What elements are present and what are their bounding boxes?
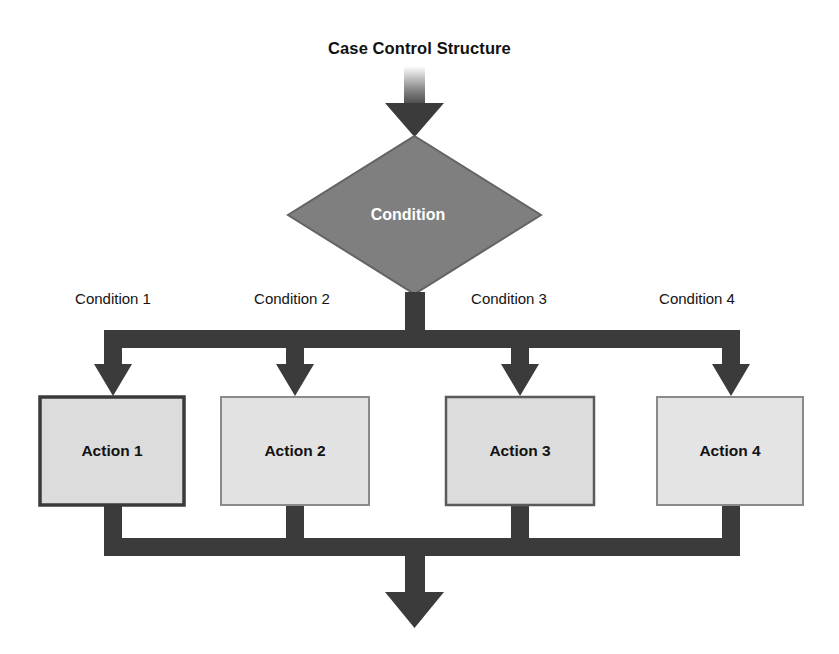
merge-connector-3	[511, 503, 529, 541]
branch-label-condition-3: Condition 3	[443, 291, 575, 306]
merge-connector-2	[286, 503, 304, 541]
page-title: Case Control Structure	[0, 40, 839, 57]
action-label-1: Action 1	[40, 443, 184, 459]
action-label-2: Action 2	[221, 443, 369, 459]
case-control-structure-diagram: Case Control Structure Condition Conditi…	[0, 0, 839, 654]
flowchart-graphics	[0, 0, 839, 654]
merge-bar-connector	[104, 538, 740, 556]
branch-label-condition-2: Condition 2	[226, 291, 358, 306]
merge-connector-1	[104, 503, 122, 541]
action-label-3: Action 3	[446, 443, 594, 459]
branch-label-condition-4: Condition 4	[631, 291, 763, 306]
decision-label: Condition	[275, 207, 541, 223]
merge-connector-4	[722, 503, 740, 541]
action-label-4: Action 4	[657, 443, 803, 459]
branch-label-condition-1: Condition 1	[47, 291, 179, 306]
exit-arrow-icon	[385, 554, 444, 628]
entry-arrow-icon	[385, 66, 444, 137]
decision-to-split-connector	[405, 292, 425, 332]
split-bar-connector	[104, 330, 740, 348]
